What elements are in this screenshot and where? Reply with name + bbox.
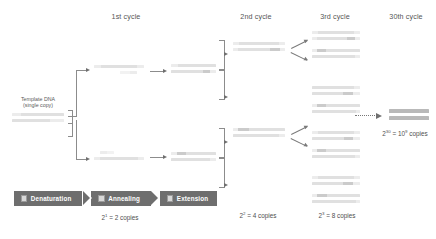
dotted-connector-to-30th <box>355 115 377 116</box>
cycle3-groupE-strand-2 <box>312 137 360 140</box>
cycle1-top-strand-template <box>94 65 144 68</box>
pcr-diagram: 1st cycle 2nd cycle 3rd cycle 30th cycle… <box>0 0 436 239</box>
copies-cycle-1: 21 = 2 copies <box>60 214 180 221</box>
cycle1-top-product-strand-1 <box>171 64 216 67</box>
process-step-denaturation-label: Denaturation <box>31 195 72 202</box>
column-header-cycle-1: 1st cycle <box>96 12 156 21</box>
cycle3-groupF-strand-2 <box>312 155 360 158</box>
cycle3-groupD-strand-1 <box>312 104 360 107</box>
cycle30-strand-1 <box>389 109 429 113</box>
template-split-bracket-bottom <box>68 123 73 137</box>
cycle1-top-strand-primer <box>120 71 137 74</box>
square-icon <box>98 195 104 201</box>
branch-line-up-h <box>76 70 86 71</box>
template-strand-top <box>12 113 64 116</box>
process-step-annealing[interactable]: Annealing <box>91 191 151 206</box>
copies-cycle-3: 23 = 8 copies <box>292 212 382 219</box>
cycle2-arrow-3 <box>224 140 228 144</box>
process-step-extension-label: Extension <box>177 195 208 202</box>
copies-cycle-3-text: = 8 copies <box>324 212 355 219</box>
process-step-extension[interactable]: Extension <box>160 191 217 206</box>
cycle1-bottom-product-strand-2 <box>171 158 216 161</box>
copies-cycle-2-text: = 4 copies <box>245 212 276 219</box>
cycle2-arrow-1 <box>224 52 228 56</box>
branch-arrow-up <box>86 68 90 72</box>
cycle3-groupC-strand-1 <box>312 86 360 89</box>
cycle3-groupA-strand-1 <box>312 31 360 34</box>
cycle2-arrow-2 <box>224 95 228 99</box>
copies-cycle-30: 230 = 109 copies <box>375 130 435 137</box>
cycle3-diag-arrow-1 <box>291 40 308 49</box>
cycle3-groupB-strand-2 <box>312 55 360 58</box>
process-step-annealing-label: Annealing <box>108 195 140 202</box>
cycle2-group1-strand-1 <box>233 42 285 45</box>
cycle3-groupH-strand-2 <box>312 200 360 203</box>
cycle3-groupG-strand-1 <box>312 176 360 179</box>
template-strand-bottom <box>12 119 64 122</box>
cycle2-arrow-4 <box>224 183 228 187</box>
cycle3-diag-arrow-2 <box>291 52 308 61</box>
copies-cycle-30-text2: copies <box>408 130 428 137</box>
copies-cycle-2: 22 = 4 copies <box>213 212 303 219</box>
branch-arrow-down <box>86 157 90 161</box>
square-icon <box>167 195 173 201</box>
cycle1-top-arrow-head <box>163 69 167 73</box>
copies-cycle-30-text: = 10 <box>391 130 405 137</box>
process-step-denaturation[interactable]: Denaturation <box>14 191 82 206</box>
square-icon <box>21 195 27 201</box>
cycle3-groupD-strand-2 <box>312 110 360 113</box>
cycle3-diag-arrow-3 <box>291 126 308 135</box>
cycle1-bottom-strand-primer <box>100 151 114 154</box>
cycle3-groupH-strand-1 <box>312 194 360 197</box>
cycle1-bottom-product-strand-1 <box>171 152 216 155</box>
column-header-cycle-2: 2nd cycle <box>226 12 286 21</box>
dotted-connector-arrow <box>376 113 382 119</box>
cycle2-group1-strand-2 <box>233 48 285 51</box>
branch-line-up <box>76 70 77 116</box>
branch-line-down-h <box>76 159 86 160</box>
cycle3-groupE-strand-1 <box>312 131 360 134</box>
cycle3-groupG-strand-2 <box>312 182 360 185</box>
cycle1-top-arrow-line <box>150 71 164 72</box>
cycle3-groupA-strand-2 <box>312 37 360 40</box>
cycle2-group2-strand-1 <box>233 128 285 131</box>
cycle1-bottom-arrow-head <box>163 155 167 159</box>
cycle1-top-product-strand-2 <box>171 70 216 73</box>
column-header-cycle-3: 3rd cycle <box>305 12 365 21</box>
cycle1-bottom-arrow-line <box>150 157 164 158</box>
cycle3-groupF-strand-1 <box>312 149 360 152</box>
template-dna-label-line2: (single copy) <box>5 102 71 108</box>
cycle30-strand-2 <box>389 116 429 120</box>
pcr-process-bar: Denaturation Annealing Extension <box>14 191 217 206</box>
column-header-cycle-30: 30th cycle <box>378 12 434 21</box>
branch-line-down <box>76 120 77 160</box>
branch-line-up-stub <box>68 116 77 117</box>
copies-cycle-1-text: = 2 copies <box>107 214 138 221</box>
cycle2-group2-strand-2 <box>233 134 285 137</box>
cycle3-diag-arrow-4 <box>291 138 308 147</box>
cycle1-bottom-strand-template <box>94 157 144 160</box>
cycle3-groupB-strand-1 <box>312 49 360 52</box>
template-split-bracket-top <box>68 110 73 124</box>
cycle3-groupC-strand-2 <box>312 92 360 95</box>
